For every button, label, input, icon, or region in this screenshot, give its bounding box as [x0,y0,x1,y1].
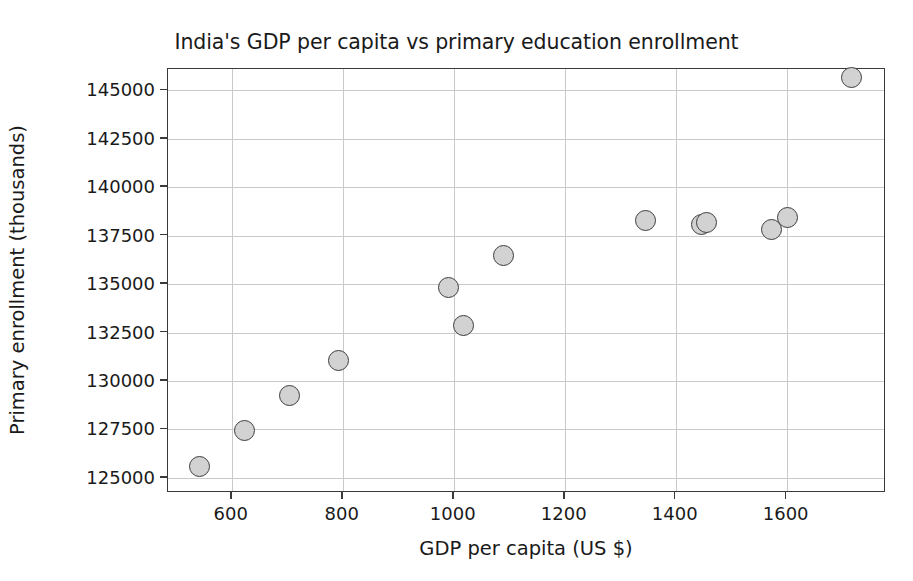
y-tick-mark [160,331,167,333]
scatter-point [635,210,656,231]
x-tick-mark [341,492,343,499]
y-axis-label: Primary enrollment (thousands) [6,125,29,435]
x-tick-label: 1000 [430,503,476,524]
x-tick-mark [230,492,232,499]
x-axis-label: GDP per capita (US $) [167,537,885,560]
scatter-point [189,456,210,477]
y-tick-label: 145000 [86,79,155,100]
scatter-point [841,67,862,88]
scatter-point [493,245,514,266]
gridline-horizontal [168,139,884,140]
y-tick-mark [160,282,167,284]
gridline-vertical [565,69,566,491]
y-tick-mark [160,185,167,187]
y-tick-mark [160,428,167,430]
x-tick-mark [785,492,787,499]
y-tick-label: 125000 [86,466,155,487]
gridline-horizontal [168,333,884,334]
scatter-point [777,207,798,228]
gridline-horizontal [168,187,884,188]
scatter-point [453,315,474,336]
y-tick-label: 132500 [86,321,155,342]
x-tick-label: 1600 [763,503,809,524]
gridline-horizontal [168,429,884,430]
y-tick-label: 127500 [86,418,155,439]
scatter-point [279,385,300,406]
x-tick-mark [452,492,454,499]
y-tick-mark [160,379,167,381]
gridline-horizontal [168,284,884,285]
plot-area [167,68,885,492]
x-tick-label: 1400 [652,503,698,524]
y-tick-mark [160,89,167,91]
gridline-vertical [232,69,233,491]
y-tick-label: 135000 [86,273,155,294]
x-tick-mark [563,492,565,499]
y-tick-mark [160,234,167,236]
scatter-point [438,277,459,298]
gridline-horizontal [168,381,884,382]
gridline-vertical [676,69,677,491]
gridline-horizontal [168,478,884,479]
x-tick-label: 800 [325,503,359,524]
y-tick-label: 140000 [86,176,155,197]
gridline-vertical [787,69,788,491]
y-tick-mark [160,476,167,478]
y-tick-label: 137500 [86,224,155,245]
x-tick-label: 1200 [541,503,587,524]
x-tick-mark [674,492,676,499]
chart-title: India's GDP per capita vs primary educat… [0,30,913,54]
scatter-point [696,212,717,233]
gridline-horizontal [168,90,884,91]
scatter-point [234,420,255,441]
y-tick-mark [160,137,167,139]
scatter-chart-figure: India's GDP per capita vs primary educat… [0,0,913,581]
scatter-point [328,350,349,371]
x-tick-label: 600 [214,503,248,524]
y-tick-label: 130000 [86,369,155,390]
y-tick-label: 142500 [86,127,155,148]
gridline-vertical [343,69,344,491]
